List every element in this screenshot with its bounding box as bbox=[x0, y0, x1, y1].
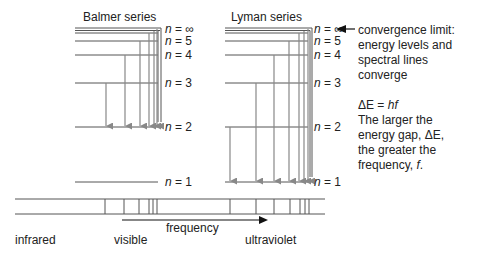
svg-text:n = 3: n = 3 bbox=[165, 76, 192, 90]
svg-text:n = 2: n = 2 bbox=[165, 120, 192, 134]
annotation-line: energy gap, ΔE, bbox=[358, 128, 444, 143]
balmer-series-title: Balmer series bbox=[83, 10, 156, 24]
lyman-level-labels: n = ∞ n = 5 n = 4 n = 3 n = 2 n = 1 bbox=[314, 22, 343, 189]
svg-text:n = 3: n = 3 bbox=[314, 76, 341, 90]
svg-text:n = 2: n = 2 bbox=[314, 120, 341, 134]
balmer-connectors bbox=[158, 28, 161, 122]
balmer-transitions bbox=[106, 29, 157, 126]
svg-text:n = 5: n = 5 bbox=[314, 34, 341, 48]
balmer-level-labels: n = ∞ n = 5 n = 4 n = 3 n = 2 n = 1 bbox=[165, 22, 194, 189]
energy-equation-annotation: ΔE = hf The larger the energy gap, ΔE, t… bbox=[358, 98, 444, 173]
frequency-label: frequency bbox=[166, 221, 219, 235]
lyman-series-title: Lyman series bbox=[231, 10, 302, 24]
balmer-energy-levels bbox=[75, 28, 161, 182]
lyman-transitions bbox=[230, 29, 308, 181]
annotation-line: the greater the bbox=[358, 143, 444, 158]
svg-text:n = 4: n = 4 bbox=[165, 48, 192, 62]
svg-text:n = 4: n = 4 bbox=[314, 48, 341, 62]
annotation-line: spectral lines bbox=[358, 53, 455, 68]
equation: ΔE = hf bbox=[358, 98, 444, 113]
annotation-line: convergence limit: bbox=[358, 23, 455, 38]
ultraviolet-label: ultraviolet bbox=[245, 233, 297, 247]
svg-text:n = 5: n = 5 bbox=[165, 34, 192, 48]
annotation-line: energy levels and bbox=[358, 38, 455, 53]
lyman-connectors bbox=[310, 28, 312, 177]
svg-text:n = 1: n = 1 bbox=[314, 175, 341, 189]
spectrum-band bbox=[15, 199, 325, 214]
annotation-line: The larger the bbox=[358, 113, 444, 128]
infrared-label: infrared bbox=[15, 233, 56, 247]
annotation-line: converge bbox=[358, 68, 455, 83]
svg-text:n = 1: n = 1 bbox=[165, 175, 192, 189]
visible-label: visible bbox=[114, 233, 148, 247]
convergence-annotation: convergence limit: energy levels and spe… bbox=[358, 23, 455, 83]
annotation-line: frequency, f. bbox=[358, 158, 444, 173]
